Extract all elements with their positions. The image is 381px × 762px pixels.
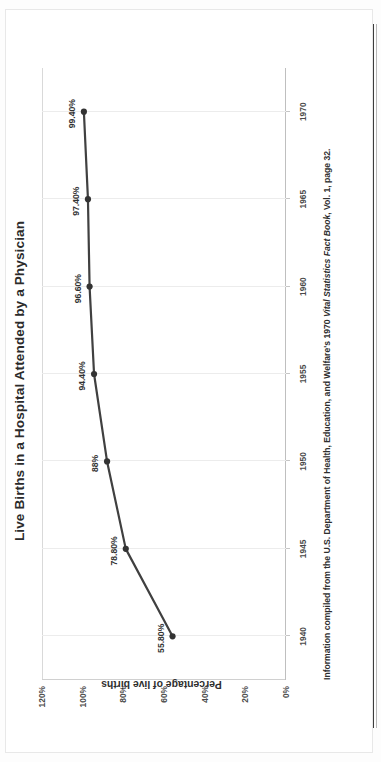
x-tick-label-1965: 1965	[298, 176, 308, 222]
x-tick-label-1960: 1960	[298, 264, 308, 310]
footnote-title: Vital Statistics Fact Book	[322, 215, 332, 317]
x-tick-label-1955: 1955	[298, 351, 308, 397]
page-edge-shadow	[376, 24, 377, 728]
y-tick-label-80pct: 80%	[118, 686, 128, 724]
data-label-1960: 96.60%	[73, 274, 83, 303]
x-tick-label-1940: 1940	[298, 613, 308, 659]
x-tick-mark	[286, 111, 290, 112]
data-label-1965: 97.40%	[71, 187, 81, 216]
source-footnote: Information compiled from the U.S. Depar…	[322, 40, 332, 680]
y-tick-label-100pct: 100%	[78, 686, 88, 724]
scanned-page: Live Births in a Hospital Attended by a …	[0, 0, 381, 762]
data-label-1950: 88%	[90, 455, 100, 472]
chart-title: Live Births in a Hospital Attended by a …	[12, 10, 27, 752]
x-tick-mark	[286, 548, 290, 549]
x-tick-mark	[286, 373, 290, 374]
data-point-marker	[169, 633, 175, 639]
x-tick-label-1945: 1945	[298, 526, 308, 572]
x-tick-mark	[286, 286, 290, 287]
data-point-marker	[86, 283, 92, 289]
x-tick-mark	[286, 635, 290, 636]
data-point-marker	[91, 371, 97, 377]
plot-wrapper: 1940194519501955196019651970 120%100%80%…	[42, 68, 286, 680]
series-polyline	[84, 112, 173, 637]
data-label-1940: 55.80%	[156, 624, 166, 653]
x-tick-mark	[286, 460, 290, 461]
y-tick-label-120pct: 120%	[37, 686, 47, 724]
y-axis-title: Percentage of live births	[40, 679, 284, 690]
y-tick-label-0pct: 0%	[281, 686, 291, 724]
data-label-1970: 99.40%	[67, 99, 77, 128]
footnote-suffix: , Vol. 1, page 32.	[322, 149, 332, 215]
data-point-marker	[81, 109, 87, 115]
y-tick-label-40pct: 40%	[200, 686, 210, 724]
landscape-content: Live Births in a Hospital Attended by a …	[6, 10, 362, 752]
data-label-1955: 94.40%	[77, 361, 87, 390]
footnote-prefix: Information compiled from the U.S. Depar…	[322, 317, 332, 680]
page-edge-rule	[373, 24, 374, 728]
x-tick-mark	[286, 198, 290, 199]
data-label-1945: 78.80%	[109, 536, 119, 565]
y-tick-label-60pct: 60%	[159, 686, 169, 724]
data-point-marker	[123, 546, 129, 552]
data-point-marker	[85, 196, 91, 202]
y-tick-label-20pct: 20%	[240, 686, 250, 724]
x-tick-label-1970: 1970	[298, 89, 308, 135]
x-tick-label-1950: 1950	[298, 438, 308, 484]
data-point-marker	[104, 458, 110, 464]
